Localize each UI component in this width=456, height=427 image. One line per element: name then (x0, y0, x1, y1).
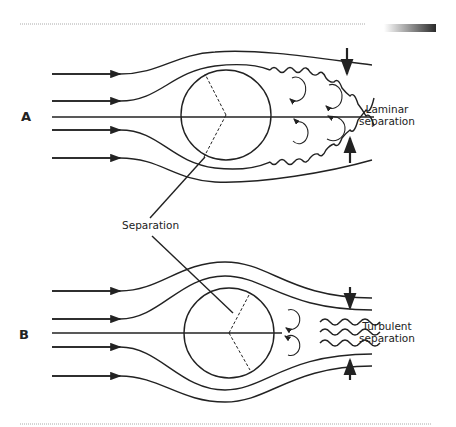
laminar-label-line2: separation (359, 115, 415, 127)
separation-label: Separation (122, 219, 179, 231)
panel-b (52, 262, 380, 402)
panel-b-label: B (19, 327, 29, 342)
turbulent-label-line2: separation (359, 332, 415, 344)
panel-a (52, 48, 374, 182)
panel-a-label: A (21, 109, 31, 124)
laminar-label-line1: Laminar (366, 103, 410, 115)
flow-separation-diagram: A B Laminar separation Turbulent separat… (0, 0, 456, 427)
turbulent-label-line1: Turbulent (361, 320, 411, 332)
gradient-bar (384, 24, 436, 32)
